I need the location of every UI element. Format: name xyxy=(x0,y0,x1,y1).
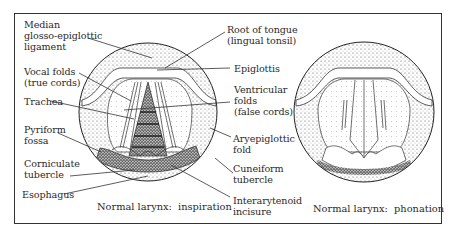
label-line: Cuneiform xyxy=(233,163,284,174)
label-line: ligament xyxy=(24,41,66,52)
label-line: glosso-epiglottic xyxy=(24,30,102,41)
caption-inspiration: Normal larynx: inspiration xyxy=(97,201,232,212)
label-aryepiglottic-fold: Aryepiglottic fold xyxy=(233,133,295,155)
label-line: Root of tongue xyxy=(227,24,297,35)
label-line: Interarytenoid xyxy=(233,195,302,206)
label-line: folds xyxy=(234,95,257,106)
label-interarytenoid-incisure: Interarytenoid incisure xyxy=(233,195,302,217)
label-line: fold xyxy=(233,144,251,155)
label-root-of-tongue: Root of tongue (lingual tonsil) xyxy=(227,24,297,46)
label-line: tubercle xyxy=(24,169,64,180)
label-line: Pyriform xyxy=(24,124,66,135)
label-pyriform-fossa: Pyriform fossa xyxy=(24,124,66,146)
label-line: Median xyxy=(24,19,60,30)
label-line: Aryepiglottic xyxy=(233,133,295,144)
larynx-phonation-drawing xyxy=(292,40,437,185)
label-median-glosso-epiglottic-ligament: Median glosso-epiglottic ligament xyxy=(24,19,102,52)
label-esophagus: Esophagus xyxy=(22,189,74,200)
label-line: Vocal folds xyxy=(24,66,75,77)
label-vocal-folds: Vocal folds (true cords) xyxy=(24,66,80,88)
caption-phonation: Normal larynx: phonation xyxy=(313,203,444,214)
larynx-inspiration-drawing xyxy=(78,42,218,182)
label-line: (false cords) xyxy=(234,106,293,117)
label-ventricular-folds: Ventricular folds (false cords) xyxy=(234,84,293,117)
label-line: (lingual tonsil) xyxy=(227,35,296,46)
label-cuneiform-tubercle: Cuneiform tubercle xyxy=(233,163,284,185)
label-line: Corniculate xyxy=(24,158,80,169)
label-line: (true cords) xyxy=(24,77,80,88)
label-line: tubercle xyxy=(233,174,273,185)
label-trachea: Trachea xyxy=(24,96,63,107)
label-epiglottis: Epiglottis xyxy=(234,63,280,74)
label-corniculate-tubercle: Corniculate tubercle xyxy=(24,158,80,180)
label-line: fossa xyxy=(24,135,48,146)
label-line: Ventricular xyxy=(234,84,287,95)
label-line: incisure xyxy=(233,206,271,217)
